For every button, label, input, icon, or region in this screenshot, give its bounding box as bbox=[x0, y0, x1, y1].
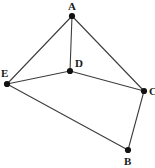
graph-edge-a-d bbox=[70, 16, 72, 71]
graph-vertex-c bbox=[141, 88, 147, 94]
graph-vertex-a bbox=[69, 13, 75, 19]
graph-diagram: ABCDE bbox=[0, 0, 155, 168]
graph-edge-a-c bbox=[72, 16, 144, 91]
graph-vertex-e bbox=[4, 81, 10, 87]
graph-edge-b-c bbox=[128, 91, 144, 150]
vertex-layer bbox=[4, 13, 147, 153]
vertex-label-c: C bbox=[149, 86, 155, 97]
vertex-label-b: B bbox=[124, 156, 131, 167]
edge-layer bbox=[7, 16, 144, 150]
graph-canvas bbox=[0, 0, 155, 168]
graph-vertex-b bbox=[125, 147, 131, 153]
graph-edge-d-c bbox=[70, 71, 144, 91]
graph-edge-e-b bbox=[7, 84, 128, 150]
graph-vertex-d bbox=[67, 68, 73, 74]
vertex-label-e: E bbox=[1, 68, 8, 79]
graph-edge-a-e bbox=[7, 16, 72, 84]
vertex-label-d: D bbox=[75, 58, 83, 69]
graph-edge-e-d bbox=[7, 71, 70, 84]
vertex-label-a: A bbox=[68, 1, 76, 12]
